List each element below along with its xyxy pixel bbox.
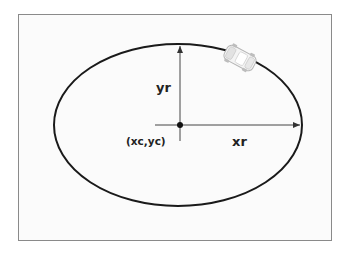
center-dot-icon [177,122,183,128]
car-icon [221,42,259,75]
center-label: (xc,yc) [126,135,166,147]
ellipse-diagram [0,0,348,253]
x-radius-label: xr [232,134,247,149]
y-radius-label: yr [156,80,171,95]
